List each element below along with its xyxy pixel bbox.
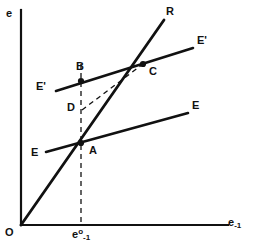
point-b-label: B [76,61,84,72]
x-tick-label: eo-1 [72,228,90,242]
point-a-label: A [89,145,97,156]
x-tick-label-subscript: -1 [83,233,90,242]
origin-label: O [5,227,14,238]
ee-schedule-line [46,113,188,152]
r-ray-line [21,20,164,225]
point-a-marker [78,140,84,146]
point-c-marker [140,61,146,67]
diagram-canvas [0,0,257,252]
y-axis-label: e [6,8,12,19]
x-axis-label: e-1 [228,217,241,230]
ee-schedule-label-right: E [192,100,199,111]
e-prime-schedule-label-right: E' [197,35,207,46]
point-b-marker [78,78,84,84]
point-d-label: D [67,102,75,113]
point-c-label: C [149,66,157,77]
x-axis-label-subscript: -1 [234,221,241,230]
r-ray-label: R [166,6,174,17]
dc-dashed-segment-line [82,64,143,110]
e-prime-schedule-label-left: E' [36,81,46,92]
economics-phase-diagram: e e-1 O eo-1 R E' E' E E B C D A [0,0,257,252]
ee-schedule-label-left: E [31,147,38,158]
